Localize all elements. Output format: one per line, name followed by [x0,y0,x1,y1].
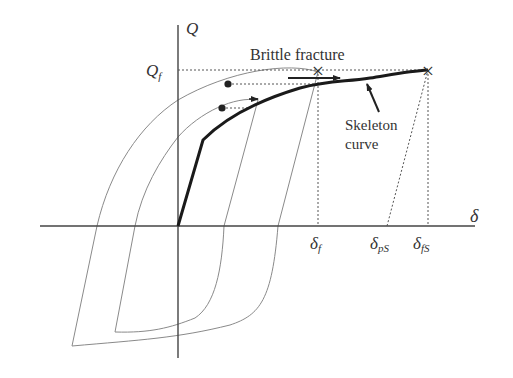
delta-fs-label: δfS [413,234,430,254]
skeleton-pointer-arrow [367,84,379,112]
inner-loop [115,99,258,332]
x-axis-label: δ [470,206,479,226]
reload-point-2 [218,104,225,111]
y-axis-label: Q [186,19,198,38]
outer-loop [72,68,318,346]
delta-ps-line [387,70,428,226]
brittle-fracture-label: Brittle fracture [250,46,345,63]
skeleton-label-line2: curve [345,136,379,152]
delta-ps-label: δpS [370,234,389,254]
dashed-guides [178,70,428,226]
skeleton-curve [178,70,428,226]
hysteresis-loops [72,68,318,346]
delta-f-label: δf [310,234,323,254]
qf-label: Qf [146,61,163,82]
reload-point-1 [224,80,231,87]
skeleton-label-line1: Skeleton [345,117,398,133]
hysteresis-diagram: × × Q δ Qf Brittle fracture Skeleton cur… [0,0,513,378]
fracture-marker-2: × [422,58,434,83]
